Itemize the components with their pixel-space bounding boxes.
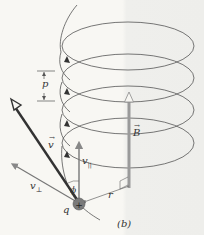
v-parallel-label: v|| bbox=[82, 156, 92, 168]
charge-label: q bbox=[63, 205, 69, 215]
phi-label: ϕ bbox=[70, 186, 76, 195]
diagram-graphics: + bbox=[0, 0, 204, 235]
right-angle-marker bbox=[120, 177, 128, 189]
panel-label: (b) bbox=[117, 219, 131, 229]
field-B-label: → B bbox=[133, 128, 140, 138]
radius-line bbox=[84, 186, 129, 202]
helix-diagram: + p → v v|| v⊥ ϕ q r → B (b) bbox=[0, 0, 204, 235]
phi-arc bbox=[68, 181, 79, 183]
vector-arrow-icon: → bbox=[49, 135, 55, 142]
field-B-arrow bbox=[125, 92, 134, 188]
pitch-label: p bbox=[42, 79, 48, 89]
helix-top-end bbox=[60, 5, 77, 52]
vector-arrow-icon: → bbox=[134, 123, 140, 130]
radius-label: r bbox=[108, 190, 113, 200]
velocity-label: → v bbox=[48, 140, 54, 150]
charge-sign: + bbox=[75, 200, 83, 210]
v-perp-label: v⊥ bbox=[30, 181, 42, 194]
